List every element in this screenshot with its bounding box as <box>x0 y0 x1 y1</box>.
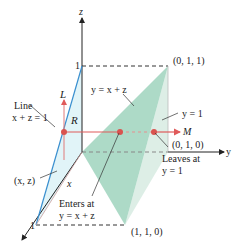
M-label: M <box>182 126 192 137</box>
z-one-tick: 1 <box>75 60 80 71</box>
point-xz-label: (x, z) <box>14 175 35 187</box>
y-axis-label: y <box>226 146 231 157</box>
leaves-label-2: y = 1 <box>162 165 183 176</box>
line-title-label: Line <box>14 100 33 111</box>
point-enter <box>117 129 123 135</box>
line-eq-label: x + z = 1 <box>12 112 48 123</box>
point-010-label: (0, 1, 0) <box>172 139 204 151</box>
z-axis-label: z <box>78 6 83 17</box>
point-110-label: (1, 1, 0) <box>131 226 163 238</box>
R-label: R <box>70 114 78 126</box>
leader-yxz <box>123 94 134 106</box>
point-xz <box>61 129 67 135</box>
diagram-canvas: z y 1 1 (0, 1, 1) (0, 1, 0) (1, 1, 0) (x… <box>0 0 233 246</box>
enters-label-1: Enters at <box>59 198 94 209</box>
x-small-label: x <box>66 178 72 189</box>
x-one-tick: 1 <box>30 220 35 231</box>
plane-y1-label: y = 1 <box>182 108 203 119</box>
leaves-label-1: Leaves at <box>162 153 200 164</box>
triple-integral-diagram: z y 1 1 (0, 1, 1) (0, 1, 0) (1, 1, 0) (x… <box>0 0 233 246</box>
point-011-label: (0, 1, 1) <box>173 55 205 67</box>
plane-yxz-label: y = x + z <box>91 84 127 95</box>
L-label: L <box>59 88 66 100</box>
enters-label-2: y = x + z <box>59 210 95 221</box>
